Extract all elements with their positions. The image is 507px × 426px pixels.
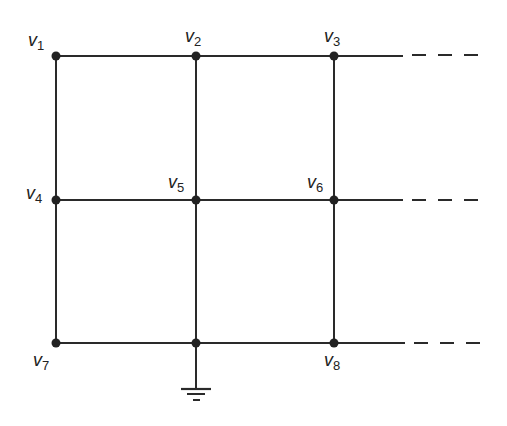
node-label-v8: v8 bbox=[324, 350, 340, 373]
node-dot-v8 bbox=[330, 339, 339, 348]
node-dot-v3 bbox=[330, 52, 339, 61]
node-dot-v6 bbox=[330, 196, 339, 205]
node-label-v5: v5 bbox=[168, 172, 184, 195]
node-dot-ground bbox=[192, 339, 201, 348]
node-label-v7: v7 bbox=[33, 350, 49, 373]
node-label-v6: v6 bbox=[307, 172, 323, 195]
node-dot-v7 bbox=[52, 339, 61, 348]
node-label-v2: v2 bbox=[185, 26, 201, 49]
node-label-v3: v3 bbox=[324, 26, 340, 49]
node-dot-v1 bbox=[52, 52, 61, 61]
node-dot-v5 bbox=[192, 196, 201, 205]
node-dot-v2 bbox=[192, 52, 201, 61]
ground-icon bbox=[181, 389, 211, 400]
diagram-lines bbox=[0, 0, 507, 426]
grid-network-diagram: v1 v2 v3 v4 v5 v6 v7 v8 bbox=[0, 0, 507, 426]
node-label-v4: v4 bbox=[26, 183, 42, 206]
node-label-v1: v1 bbox=[28, 30, 44, 53]
node-dot-v4 bbox=[52, 196, 61, 205]
